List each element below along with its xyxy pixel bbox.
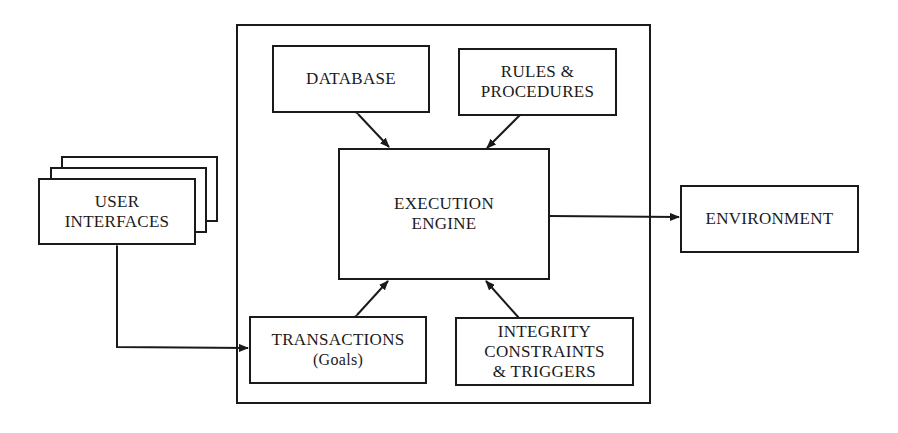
edge-engine-environment [549, 216, 679, 217]
integrity-label-line2: CONSTRAINTS [484, 342, 604, 362]
rules-procedures-box: RULES & PROCEDURES [458, 48, 617, 116]
transactions-label-line2: (Goals) [313, 350, 363, 370]
integrity-label-line1: INTEGRITY [498, 322, 591, 342]
edge-database-engine [358, 114, 389, 147]
user-interfaces-box: USER INTERFACES [38, 178, 196, 245]
engine-label-line1: EXECUTION [394, 194, 494, 214]
user-interfaces-label-line2: INTERFACES [65, 212, 170, 232]
edge-transactions-engine [357, 281, 388, 315]
edge-integrity-engine [486, 281, 519, 318]
database-label: DATABASE [306, 69, 396, 89]
engine-label-line2: ENGINE [411, 214, 476, 234]
execution-engine-box: EXECUTION ENGINE [338, 148, 550, 280]
transactions-label-line1: TRANSACTIONS [271, 330, 404, 350]
edge-rules-engine [487, 115, 520, 148]
edge-ui-transactions [117, 246, 248, 348]
rules-label-line1: RULES & [501, 62, 574, 82]
database-box: DATABASE [272, 45, 430, 113]
user-interfaces-label-line1: USER [95, 192, 140, 212]
integrity-triggers-box: INTEGRITY CONSTRAINTS & TRIGGERS [455, 317, 634, 386]
environment-box: ENVIRONMENT [680, 185, 859, 253]
integrity-label-line3: & TRIGGERS [493, 362, 596, 382]
rules-label-line2: PROCEDURES [481, 82, 595, 102]
transactions-box: TRANSACTIONS (Goals) [249, 316, 427, 384]
environment-label: ENVIRONMENT [706, 209, 834, 229]
